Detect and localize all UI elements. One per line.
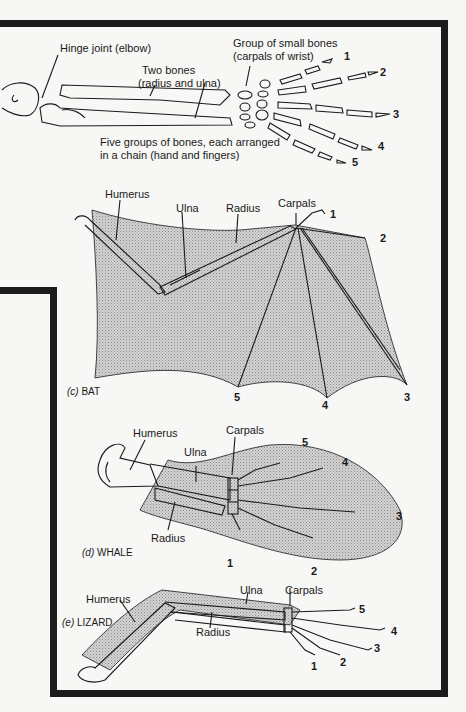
bat-digit-3: 3	[404, 391, 410, 403]
label-radius-ulna: (radius and ulna)	[138, 77, 221, 89]
lizard-label-carpals: Carpals	[285, 584, 323, 596]
label-hand-fingers: in a chain (hand and fingers)	[100, 149, 239, 161]
label-five-groups: Five groups of bones, each arranged	[100, 136, 280, 148]
whale-label-ulna: Ulna	[184, 446, 207, 458]
bat-label-humerus: Humerus	[105, 188, 150, 200]
digit-1: 1	[344, 50, 350, 62]
lizard-digit-1: 1	[311, 660, 317, 672]
bat-label-carpals: Carpals	[278, 197, 316, 209]
bat-digit-1: 1	[330, 208, 336, 220]
bat-caption: (c) BAT	[67, 386, 100, 397]
label-carpals-wrist: (carpals of wrist)	[233, 50, 314, 62]
whale-digit-4: 4	[342, 456, 348, 468]
digit-3: 3	[393, 108, 399, 120]
lizard-digit-2: 2	[340, 656, 346, 668]
lizard-label-humerus: Humerus	[86, 593, 131, 605]
whale-caption: (d) WHALE	[82, 547, 133, 558]
lizard-caption: (e) LIZARD	[62, 617, 113, 628]
lizard-digit-5: 5	[359, 603, 365, 615]
lizard-label-radius: Radius	[196, 626, 230, 638]
bat-digit-5: 5	[234, 391, 240, 403]
whale-flipper	[98, 437, 402, 560]
lizard-digit-3: 3	[374, 642, 380, 654]
lizard-digit-4: 4	[391, 625, 397, 637]
bat-digit-4: 4	[322, 399, 328, 411]
label-two-bones: Two bones	[142, 64, 195, 76]
label-hinge-joint: Hinge joint (elbow)	[60, 42, 151, 54]
bat-digit-2: 2	[380, 232, 386, 244]
diagram-artwork	[0, 0, 466, 712]
bat-wing	[75, 200, 407, 398]
whale-digit-3: 3	[396, 510, 402, 522]
bat-label-radius: Radius	[226, 202, 260, 214]
whale-label-radius: Radius	[151, 532, 185, 544]
digit-2: 2	[380, 66, 386, 78]
whale-label-humerus: Humerus	[133, 427, 178, 439]
whale-label-carpals: Carpals	[226, 424, 264, 436]
label-small-bones: Group of small bones	[233, 37, 338, 49]
whale-digit-2: 2	[311, 565, 317, 577]
whale-digit-5: 5	[302, 436, 308, 448]
digit-5: 5	[352, 156, 358, 168]
bat-label-ulna: Ulna	[176, 202, 199, 214]
whale-digit-1: 1	[227, 557, 233, 569]
lizard-label-ulna: Ulna	[240, 584, 263, 596]
digit-4: 4	[378, 140, 384, 152]
